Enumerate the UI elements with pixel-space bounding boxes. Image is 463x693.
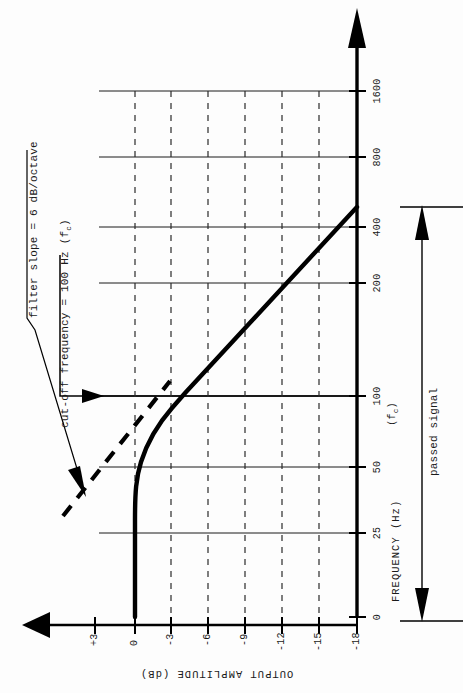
annotation-passed-signal: passed signal bbox=[429, 388, 440, 476]
fc-subscript: c bbox=[392, 408, 400, 413]
db-tick-label-plus3: +3 bbox=[90, 633, 100, 646]
cutoff-annotation-text: cut-off frequency = 100 Hz (f bbox=[59, 231, 71, 428]
frequency-axis bbox=[348, 8, 366, 617]
filter-response-curve bbox=[135, 207, 357, 617]
db-tick-label-minus6: -6 bbox=[203, 633, 213, 646]
freq-tick-label-1600: 1600 bbox=[373, 78, 383, 103]
freq-tick-label-200: 200 bbox=[373, 274, 383, 293]
cutoff-fc-subscript: c bbox=[65, 226, 73, 231]
db-tick-label-minus15: -15 bbox=[314, 632, 324, 651]
freq-tick-label-25: 25 bbox=[373, 527, 383, 540]
amplitude-axis-title: OUTPUT AMPLITUDE (dB) bbox=[140, 668, 293, 679]
freq-tick-label-0: 0 bbox=[373, 614, 383, 620]
filter-response-figure: 1600 800 400 200 100 50 25 0 (fc) FREQUE… bbox=[0, 0, 463, 693]
fc-open-paren: (f bbox=[387, 413, 398, 426]
amplitude-gridlines bbox=[135, 91, 319, 617]
db-tick-label-minus3: -3 bbox=[166, 633, 176, 646]
asymptote-dashed-line bbox=[63, 381, 170, 516]
annotation-cutoff-frequency: cut-off frequency = 100 Hz (fc) bbox=[60, 219, 74, 428]
freq-tick-label-800: 800 bbox=[373, 148, 383, 167]
annotation-filter-slope: filter slope = 6 dB/octave bbox=[29, 141, 40, 318]
amplitude-axis bbox=[22, 612, 357, 638]
cutoff-close-paren: ) bbox=[59, 219, 71, 226]
freq-tick-label-fc: (fc) bbox=[388, 402, 401, 426]
fc-close-paren: ) bbox=[387, 402, 398, 408]
freq-tick-label-50: 50 bbox=[373, 461, 383, 474]
db-tick-label-minus12: -12 bbox=[277, 632, 287, 651]
db-tick-label-0: 0 bbox=[130, 640, 140, 646]
freq-tick-label-100: 100 bbox=[373, 387, 383, 406]
freq-tick-label-400: 400 bbox=[373, 218, 383, 237]
frequency-axis-title: FREQUENCY (Hz) bbox=[391, 500, 402, 602]
db-tick-label-minus18: -18 bbox=[352, 632, 362, 651]
db-tick-label-minus9: -9 bbox=[240, 633, 250, 646]
